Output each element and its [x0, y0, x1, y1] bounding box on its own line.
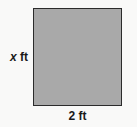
height-unit-text: ft — [20, 50, 28, 64]
height-dimension-label: x ft — [7, 51, 31, 63]
geometry-figure: x ft 2 ft — [0, 0, 137, 127]
width-unit-text: ft — [79, 109, 87, 123]
height-variable-text: x — [10, 50, 17, 64]
width-dimension-label: 2 ft — [33, 110, 122, 122]
square-shape — [33, 8, 122, 106]
